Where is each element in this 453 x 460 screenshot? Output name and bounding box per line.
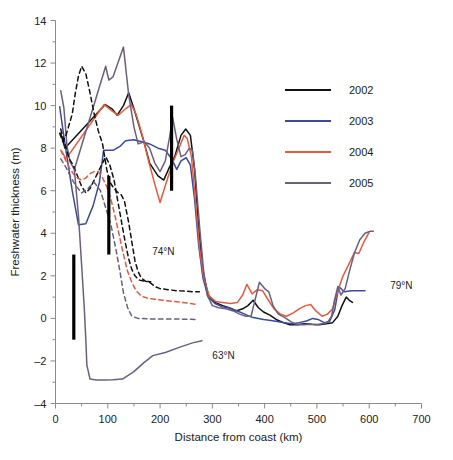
legend-label-2005: 2005 xyxy=(349,177,373,189)
y-tick-label: 8 xyxy=(40,142,46,154)
x-axis-title: Distance from coast (km) xyxy=(175,431,303,443)
x-tick-label: 100 xyxy=(99,413,117,425)
y-tick-label: –2 xyxy=(34,355,46,367)
annotation-79N: 79°N xyxy=(390,280,412,291)
annotation-74N: 74°N xyxy=(152,246,174,257)
x-tick-label: 600 xyxy=(360,413,378,425)
y-tick-label: 12 xyxy=(34,57,46,69)
x-tick-label: 400 xyxy=(255,413,273,425)
y-tick-label: 14 xyxy=(34,15,46,27)
y-axis-title: Freshwater thickness (m) xyxy=(9,147,21,276)
annotation-63N: 63°N xyxy=(212,350,234,361)
x-tick-label: 200 xyxy=(151,413,169,425)
y-tick-label: 10 xyxy=(34,100,46,112)
y-tick-label: –4 xyxy=(34,398,46,410)
x-tick-label: 0 xyxy=(52,413,58,425)
canvas-background xyxy=(0,0,453,460)
y-tick-label: 4 xyxy=(40,227,46,239)
legend-label-2003: 2003 xyxy=(349,115,373,127)
y-tick-label: 0 xyxy=(40,312,46,324)
y-tick-label: 2 xyxy=(40,270,46,282)
plot-background xyxy=(0,0,453,460)
freshwater-thickness-chart: –4–2024681012140100200300400500600700 74… xyxy=(0,0,453,460)
legend-label-2004: 2004 xyxy=(349,146,373,158)
x-tick-label: 300 xyxy=(203,413,221,425)
x-tick-label: 500 xyxy=(308,413,326,425)
chart-svg: –4–2024681012140100200300400500600700 74… xyxy=(0,0,453,460)
legend-label-2002: 2002 xyxy=(349,84,373,96)
y-tick-label: 6 xyxy=(40,185,46,197)
x-tick-label: 700 xyxy=(412,413,430,425)
